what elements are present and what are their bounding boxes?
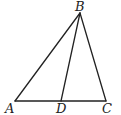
label-a: A <box>4 101 14 115</box>
segment-bc <box>80 13 106 101</box>
label-c: C <box>102 101 112 115</box>
triangle-diagram: B A D C <box>0 0 121 115</box>
label-d: D <box>55 101 67 115</box>
label-b: B <box>74 0 85 14</box>
